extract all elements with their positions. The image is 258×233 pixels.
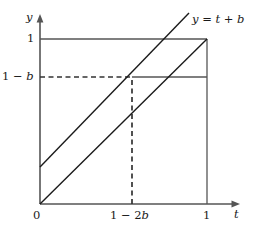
x-tick-label-1: 1 bbox=[203, 210, 210, 222]
x-axis-label: t bbox=[234, 209, 239, 221]
plot-figure: y t 1 1 − b 0 1 − 2b 1 y = t + b bbox=[0, 0, 258, 233]
y-axis bbox=[37, 14, 44, 204]
line-y-equals-t bbox=[40, 39, 207, 204]
x-tick-label-1-minus-2b: 1 − 2b bbox=[110, 210, 149, 222]
y-tick-label-1-minus-b: 1 − b bbox=[2, 71, 34, 83]
x-axis bbox=[40, 201, 240, 208]
line-annotation-y-equals-t-plus-b: y = t + b bbox=[192, 14, 244, 26]
line-y-equals-t-plus-b bbox=[40, 13, 189, 167]
x-tick-label-0: 0 bbox=[33, 210, 40, 222]
y-axis-label: y bbox=[26, 12, 33, 24]
plot-canvas bbox=[0, 0, 258, 233]
y-tick-label-1: 1 bbox=[27, 33, 34, 45]
